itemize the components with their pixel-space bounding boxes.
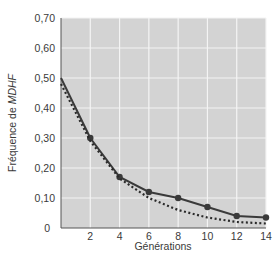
x-tick-label: 2 (87, 230, 93, 242)
y-tick-label: 0 (44, 222, 50, 234)
y-tick-label: 0,60 (35, 42, 56, 54)
y-axis-label: Fréquence de MDHF (6, 73, 18, 172)
data-point-marker (234, 213, 240, 219)
x-tick-label: 4 (117, 230, 123, 242)
y-tick-label: 0,50 (35, 72, 56, 84)
chart: 00,100,200,300,400,500,600,70 2468101214… (0, 0, 280, 261)
x-tick-label: 14 (260, 230, 272, 242)
data-point-marker (175, 195, 181, 201)
x-tick-label: 10 (202, 230, 214, 242)
data-point-marker (204, 204, 210, 210)
data-point-marker (263, 214, 269, 220)
y-tick-label: 0,20 (35, 162, 56, 174)
plot-area (61, 18, 266, 228)
y-tick-label: 0,40 (35, 102, 56, 114)
y-axis-ticks: 00,100,200,300,400,500,600,70 (35, 12, 56, 234)
x-axis-label: Générations (134, 240, 191, 252)
y-axis-label-italic: MDHF (6, 73, 18, 104)
y-tick-label: 0,10 (35, 192, 56, 204)
y-tick-label: 0,70 (35, 12, 56, 24)
data-point-marker (146, 189, 152, 195)
y-tick-label: 0,30 (35, 132, 56, 144)
x-tick-label: 12 (231, 230, 243, 242)
y-axis-label-prefix: Fréquence de (6, 104, 18, 172)
